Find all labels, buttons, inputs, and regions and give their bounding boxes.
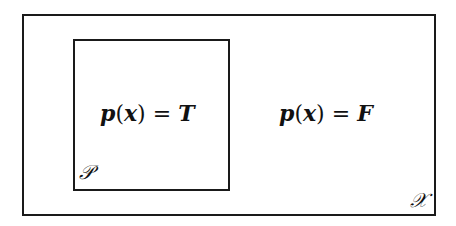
universe-label: 𝒳 bbox=[410, 188, 427, 212]
subset-label: 𝒫 bbox=[79, 160, 93, 184]
inside-expression: p(x) = T bbox=[100, 100, 195, 126]
function-name: p bbox=[100, 100, 115, 126]
argument: x bbox=[124, 100, 137, 126]
outside-expression: p(x) = F bbox=[279, 100, 373, 126]
truth-value: T bbox=[178, 100, 194, 126]
argument: x bbox=[303, 100, 316, 126]
truth-value: F bbox=[357, 100, 373, 126]
function-name: p bbox=[279, 100, 294, 126]
